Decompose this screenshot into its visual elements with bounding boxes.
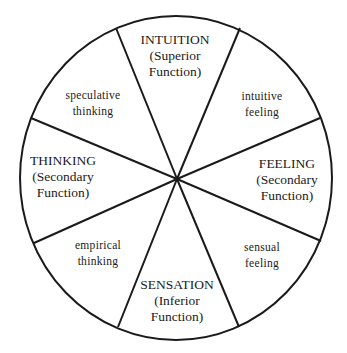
- segment-thinking: THINKING (Secondary Function): [30, 153, 96, 201]
- segment-subtitle: Function): [30, 185, 96, 201]
- segment-intuitive-feeling: intuitive feeling: [241, 88, 282, 120]
- segment-intuition: INTUITION (Superior Function): [141, 32, 210, 80]
- segment-title: SENSATION: [140, 277, 214, 293]
- segment-text: sensual: [244, 239, 280, 255]
- segment-title: FEELING: [256, 156, 317, 172]
- segment-text: speculative: [65, 87, 120, 103]
- segment-subtitle: Function): [256, 188, 317, 204]
- segment-title: INTUITION: [141, 32, 210, 48]
- segment-speculative-thinking: speculative thinking: [65, 87, 120, 119]
- segment-subtitle: (Superior: [141, 48, 210, 64]
- segment-text: thinking: [65, 103, 120, 119]
- segment-text: feeling: [241, 104, 282, 120]
- segment-title: THINKING: [30, 153, 96, 169]
- segment-text: thinking: [75, 253, 121, 269]
- segment-subtitle: (Inferior: [140, 293, 214, 309]
- segment-subtitle: Function): [141, 64, 210, 80]
- segment-subtitle: (Secondary: [30, 169, 96, 185]
- segment-subtitle: (Secondary: [256, 172, 317, 188]
- segment-sensation: SENSATION (Inferior Function): [140, 277, 214, 325]
- segment-text: feeling: [244, 255, 280, 271]
- segment-empirical-thinking: empirical thinking: [75, 237, 121, 269]
- segment-sensual-feeling: sensual feeling: [244, 239, 280, 271]
- segment-text: empirical: [75, 237, 121, 253]
- segment-feeling: FEELING (Secondary Function): [256, 156, 317, 204]
- segment-text: intuitive: [241, 88, 282, 104]
- segment-subtitle: Function): [140, 309, 214, 325]
